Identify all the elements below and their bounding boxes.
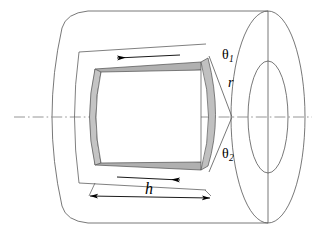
band-right-edge xyxy=(201,58,216,170)
diagram-canvas xyxy=(0,0,324,234)
dim-extension-left xyxy=(89,183,95,196)
cylinder-top-line xyxy=(62,11,268,28)
label-radius: r xyxy=(228,76,233,90)
cylinder-bottom-line xyxy=(62,206,268,223)
theta2-symbol: θ xyxy=(222,146,229,161)
cylinder-band-geometry-diagram: θ1 θ2 r h xyxy=(0,0,324,234)
theta2-subscript: 2 xyxy=(229,153,234,163)
label-theta1: θ1 xyxy=(222,48,233,62)
shaded-band xyxy=(90,58,216,170)
theta1-subscript: 1 xyxy=(229,54,234,64)
band-front-surface xyxy=(96,70,201,163)
top-circulation-arrow xyxy=(117,55,180,58)
label-theta2: θ2 xyxy=(222,147,233,161)
theta1-symbol: θ xyxy=(222,47,229,62)
dim-extension-right xyxy=(205,190,211,196)
label-height: h xyxy=(145,181,153,197)
